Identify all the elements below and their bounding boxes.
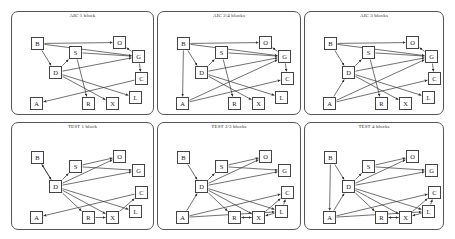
node-l: L [422,91,435,104]
edge-arrow [209,60,215,66]
edge-arrow [223,60,232,97]
node-c: C [428,72,441,85]
edge-arrow [420,48,425,52]
graph-panel: TEST 2/3 blocksBSOGDCARXL [157,122,301,230]
edge-arrow [63,58,132,71]
edge-arrow [229,158,259,165]
edge-arrow [370,60,379,97]
node-s: S [362,160,375,173]
edge-arrow [63,75,129,96]
edge-arrow [284,200,286,205]
edge-arrow [376,158,406,165]
node-c: C [428,186,441,199]
edge-arrow [335,165,344,180]
edge-arrow [209,174,215,180]
node-o: O [406,150,419,163]
node-l: L [129,205,142,218]
edge-arrow [63,60,69,66]
edge-arrow [83,167,132,170]
edge-arrow [334,80,344,97]
node-o: O [113,36,126,49]
node-c: C [135,186,148,199]
node-g: G [425,164,438,177]
graph-panel: AIC 3 blocksBSOGDCARXL [304,11,444,115]
node-a: A [30,211,43,224]
node-b: B [324,151,337,164]
node-r: R [228,211,241,224]
edge-arrow [63,189,129,210]
node-x: X [252,97,265,110]
edge-arrow [209,75,275,96]
edge-arrow [413,213,422,215]
node-s: S [215,160,228,173]
node-b: B [324,37,337,50]
edge-arrow [334,194,344,211]
edge-arrow [42,165,51,180]
edge-arrow [356,60,362,66]
edge-arrow [63,174,69,180]
node-g: G [132,50,145,63]
node-a: A [176,97,189,110]
node-x: X [399,97,412,110]
node-x: X [106,97,119,110]
graph-panel: TEST 1 blockBSOGDCARXL [11,122,154,230]
edge-arrow [183,51,184,97]
edge-arrow [266,213,275,215]
edge-arrow [45,43,113,44]
node-c: C [281,72,294,85]
node-g: G [278,164,291,177]
node-l: L [275,205,288,218]
edge-arrow [191,43,259,44]
node-s: S [362,46,375,59]
node-s: S [69,46,82,59]
node-d: D [342,180,355,193]
node-d: D [195,66,208,79]
node-b: B [31,37,44,50]
edge-arrow [376,167,425,170]
node-a: A [176,211,189,224]
node-d: D [49,66,62,79]
edge-arrow [431,200,433,205]
node-r: R [228,97,241,110]
node-l: L [129,91,142,104]
edge-arrow [77,60,86,97]
node-o: O [113,150,126,163]
edge-arrow [273,48,278,52]
node-r: R [82,211,95,224]
node-l: L [422,205,435,218]
node-a: A [323,97,336,110]
node-g: G [278,50,291,63]
node-b: B [31,151,44,164]
node-b: B [177,151,190,164]
edge-arrow [285,64,286,72]
edge-arrow [188,165,197,180]
edge-arrow [356,174,362,180]
node-b: B [177,37,190,50]
node-s: S [215,46,228,59]
node-g: G [425,50,438,63]
edge-arrow [356,189,422,210]
node-x: X [106,211,119,224]
node-d: D [49,180,62,193]
node-o: O [259,150,272,163]
edge-arrow [139,64,140,72]
node-d: D [342,66,355,79]
node-o: O [406,36,419,49]
node-r: R [82,97,95,110]
graph-panel: AIC 1 blockBSOGDCARXL [11,11,154,115]
edge-arrow [188,51,197,66]
node-c: C [135,72,148,85]
edge-arrow [229,167,278,170]
node-l: L [275,91,288,104]
edge-arrow [330,165,331,211]
node-o: O [259,36,272,49]
node-d: D [195,180,208,193]
edge-arrow [335,51,344,66]
node-x: X [252,211,265,224]
edge-arrow [42,51,51,66]
node-c: C [281,186,294,199]
edge-arrow [209,189,275,210]
edge-arrow [356,75,422,96]
graph-panel: TEST 4 blocksBSOGDCARXL [304,122,444,230]
edge-arrow [127,48,132,52]
